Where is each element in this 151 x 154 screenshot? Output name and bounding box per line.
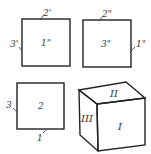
top-edge-label: 2' [42,8,51,18]
diagram-canvas: 2' 3' 1" 2" 1" 3" 3 1 2 II I III [0,0,151,154]
square-top-left: 2' 3' 1" [10,8,70,66]
front-face-label: I [117,121,123,132]
face-label: 2 [37,101,44,111]
face-label: 3" [101,39,111,49]
right-edge-label: 1" [136,39,146,49]
top-face-label: II [109,88,119,99]
left-edge-label: 3 [6,100,12,110]
cube: II I III [79,82,145,151]
bottom-edge-label: 1 [37,133,43,143]
square-bottom-left: 3 1 2 [6,83,64,143]
left-edge-label: 3' [10,39,18,49]
top-edge-label: 2" [101,9,112,19]
left-face-label: III [80,113,94,124]
square-top-right: 2" 1" 3" [83,9,146,67]
face-label: 1" [41,38,51,48]
